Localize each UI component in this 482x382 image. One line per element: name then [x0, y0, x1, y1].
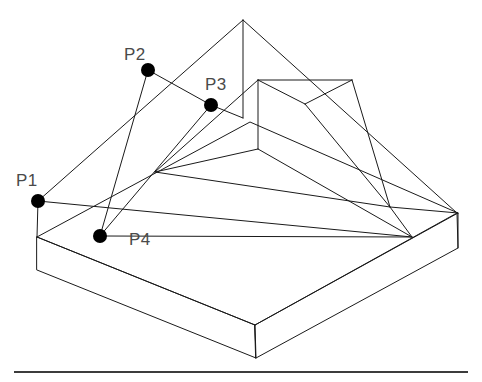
inner-rim-edge-left-front [155, 172, 390, 207]
base-top-back-edges [37, 122, 458, 237]
inner-chamfer-upper-right [305, 80, 352, 104]
inner-rim-edge-right-front [352, 80, 390, 207]
frustum-inner-rim [155, 80, 458, 237]
point-label-p2: P2 [124, 45, 146, 64]
inner-corner-vertical-right [390, 207, 412, 237]
ridge-p2-p3 [148, 70, 211, 105]
frustum-outer-faces [37, 20, 458, 358]
point-labels-group: P1 P2 P3 P4 [16, 45, 227, 249]
marked-ridge-lines [38, 70, 412, 237]
inner-chamfer-upper-left [258, 80, 305, 104]
point-label-p1: P1 [16, 171, 38, 190]
point-dot-p4[interactable] [93, 229, 107, 243]
outer-edge-right-back [243, 20, 457, 213]
inner-to-outer-right [390, 207, 458, 213]
ridge-p1-right [38, 201, 412, 237]
point-dot-p3[interactable] [204, 98, 218, 112]
diagram-canvas: P1 P2 P3 P4 [0, 0, 482, 382]
point-dot-p2[interactable] [141, 63, 155, 77]
point-label-p3: P3 [205, 75, 227, 94]
isometric-frustum-figure: P1 P2 P3 P4 [0, 0, 482, 382]
inner-chamfer-descend [305, 104, 390, 207]
point-dot-p1[interactable] [31, 194, 45, 208]
point-label-p4: P4 [129, 230, 151, 249]
outer-edge-right-front [255, 213, 457, 325]
base-front-left-face [37, 237, 256, 358]
inner-ledge-right [258, 149, 412, 237]
base-front-right-face [255, 213, 458, 358]
